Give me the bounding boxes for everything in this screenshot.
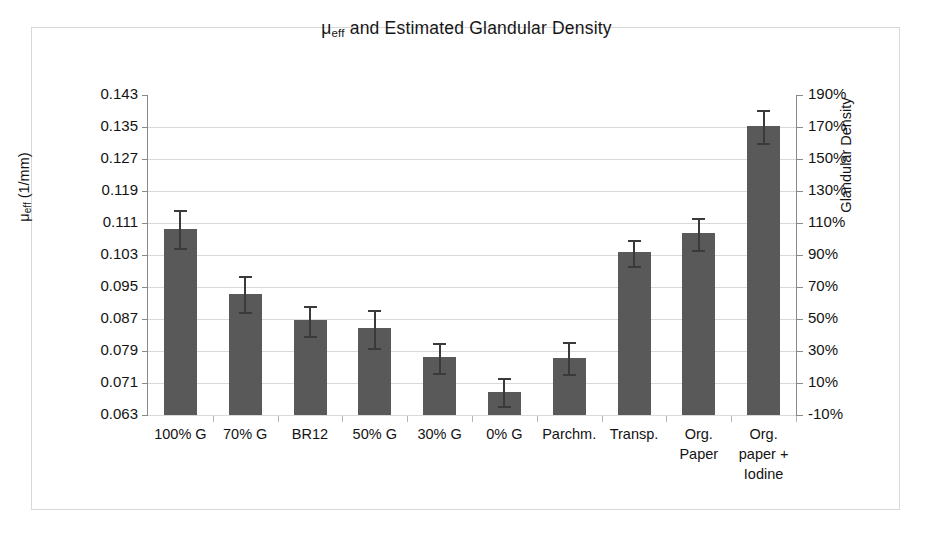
y-axis-left-tick-label: 0.103 — [68, 245, 138, 262]
gridline — [148, 191, 796, 192]
y-axis-right-tick-label: 10% — [808, 373, 878, 390]
x-axis-tick — [213, 416, 214, 422]
y-axis-left-tick — [142, 255, 148, 256]
x-axis-category-label: 100% G — [148, 424, 213, 444]
error-bar-cap-lower — [757, 143, 770, 145]
chart-title-mu: μ — [321, 18, 331, 38]
y-axis-right-tick — [797, 287, 803, 288]
y-axis-right-tick-label: 30% — [808, 341, 878, 358]
error-bar-cap-lower — [239, 312, 252, 314]
y-axis-left-tick — [142, 223, 148, 224]
error-bar-cap-lower — [498, 406, 511, 408]
x-axis-tick — [731, 416, 732, 422]
y-axis-right-tick-label: 90% — [808, 245, 878, 262]
x-axis-category-label-line: Paper — [679, 446, 718, 462]
y-axis-right-tick-label: 170% — [808, 117, 878, 134]
y-axis-left-tick-label: 0.127 — [68, 149, 138, 166]
error-bar-cap-lower — [368, 348, 381, 350]
x-axis-tick — [472, 416, 473, 422]
chart-title: μeff and Estimated Glandular Density — [0, 18, 933, 39]
y-axis-left-tick — [142, 191, 148, 192]
y-axis-left-tick-label: 0.079 — [68, 341, 138, 358]
y-axis-left-tick — [142, 383, 148, 384]
error-bar-cap-upper — [692, 218, 705, 220]
y-axis-right-labels: 190%170%150%130%110%90%70%50%30%10%-10% — [808, 0, 884, 540]
bar — [618, 252, 651, 415]
error-bar-cap-upper — [368, 310, 381, 312]
y-axis-left-tick — [142, 159, 148, 160]
y-axis-left-tick-label: 0.063 — [68, 405, 138, 422]
x-axis-tick — [537, 416, 538, 422]
x-axis-tick — [342, 416, 343, 422]
error-bar-cap-lower — [174, 248, 187, 250]
x-axis-category-label-line: Iodine — [744, 466, 784, 482]
y-axis-left-title-rest: (1/mm) — [16, 152, 32, 202]
y-axis-left-tick — [142, 319, 148, 320]
bar — [682, 233, 715, 415]
x-axis-category-label-line: 100% G — [154, 426, 206, 442]
y-axis-left-tick — [142, 351, 148, 352]
y-axis-right-tick-label: 70% — [808, 277, 878, 294]
error-bar-cap-lower — [433, 373, 446, 375]
chart-title-subscript: eff — [332, 27, 345, 39]
error-bar — [309, 306, 311, 336]
y-axis-right-tick — [797, 319, 803, 320]
x-axis-category-label: Parchm. — [537, 424, 602, 444]
error-bar-cap-lower — [628, 266, 641, 268]
error-bar — [568, 342, 570, 374]
x-axis-category-label-line: 30% G — [417, 426, 461, 442]
y-axis-right-tick-label: 150% — [808, 149, 878, 166]
x-axis-category-label-line: 0% G — [486, 426, 522, 442]
error-bar — [698, 218, 700, 250]
y-axis-left-tick — [142, 287, 148, 288]
y-axis-left-title: μeff (1/mm) — [16, 122, 33, 252]
x-axis-tick — [796, 416, 797, 422]
bar — [747, 126, 780, 415]
y-axis-right-tick-label: 50% — [808, 309, 878, 326]
y-axis-left-tick-label: 0.111 — [68, 213, 138, 230]
error-bar-cap-lower — [692, 250, 705, 252]
chart-title-rest: and Estimated Glandular Density — [345, 18, 612, 38]
error-bar-cap-lower — [563, 374, 576, 376]
error-bar — [633, 240, 635, 266]
y-axis-right-tick-label: -10% — [808, 405, 878, 422]
x-axis-category-label-line: Org. — [685, 426, 713, 442]
x-axis-tick — [278, 416, 279, 422]
x-axis-tick — [666, 416, 667, 422]
y-axis-right-tick — [797, 127, 803, 128]
error-bar-cap-upper — [563, 342, 576, 344]
x-axis-category-label: 30% G — [407, 424, 472, 444]
y-axis-left-tick-label: 0.135 — [68, 117, 138, 134]
error-bar-cap-upper — [628, 240, 641, 242]
x-axis-category-label: Org.Paper — [666, 424, 731, 464]
y-axis-left-tick-label: 0.071 — [68, 373, 138, 390]
error-bar — [374, 310, 376, 348]
y-axis-left-labels: 0.1430.1350.1270.1190.1110.1030.0950.087… — [62, 0, 138, 540]
y-axis-right-tick — [797, 351, 803, 352]
x-axis-category-label-line: paper + — [739, 446, 789, 462]
gridline — [148, 159, 796, 160]
error-bar-cap-upper — [757, 110, 770, 112]
y-axis-left-tick-label: 0.095 — [68, 277, 138, 294]
x-axis-category-label-line: BR12 — [292, 426, 328, 442]
error-bar-cap-lower — [304, 336, 317, 338]
x-axis-category-label: 0% G — [472, 424, 537, 444]
x-axis-category-label: BR12 — [278, 424, 343, 444]
y-axis-right-tick — [797, 223, 803, 224]
x-axis-category-label: Org.paper +Iodine — [731, 424, 796, 484]
y-axis-right-tick — [797, 415, 803, 416]
y-axis-left-tick — [142, 415, 148, 416]
y-axis-right-tick-label: 110% — [808, 213, 878, 230]
plot-area — [148, 95, 796, 415]
gridline — [148, 127, 796, 128]
error-bar-cap-upper — [498, 378, 511, 380]
error-bar — [503, 378, 505, 406]
y-axis-right-tick-label: 190% — [808, 85, 878, 102]
x-axis-category-label: 70% G — [213, 424, 278, 444]
y-axis-right-tick — [797, 255, 803, 256]
x-axis-category-label: 50% G — [342, 424, 407, 444]
error-bar — [763, 110, 765, 143]
x-axis-category-label-line: 70% G — [223, 426, 267, 442]
y-axis-right-tick — [797, 95, 803, 96]
y-axis-right-tick — [797, 383, 803, 384]
